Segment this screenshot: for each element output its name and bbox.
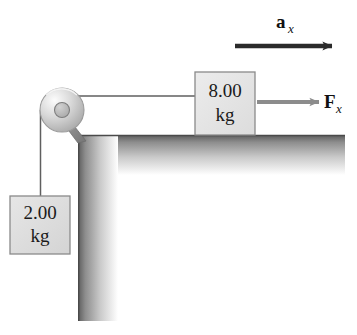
block-2kg-mass-value: 2.00 bbox=[23, 202, 56, 223]
pulley bbox=[40, 88, 84, 132]
pulley-hub bbox=[55, 103, 70, 118]
block-2kg-mass-unit: kg bbox=[31, 225, 51, 246]
acceleration-subscript: x bbox=[287, 21, 294, 36]
acceleration-symbol: a bbox=[276, 11, 286, 32]
physics-diagram-figure: 8.00 kg 2.00 kg a x F x bbox=[0, 0, 357, 335]
block-8kg: 8.00 kg bbox=[195, 72, 255, 135]
force-vector: F x bbox=[257, 91, 342, 116]
block-8kg-mass-value: 8.00 bbox=[208, 80, 241, 101]
acceleration-vector: a x bbox=[235, 11, 332, 46]
force-symbol: F bbox=[324, 91, 336, 112]
diagram-canvas: 8.00 kg 2.00 kg a x F x bbox=[0, 0, 357, 335]
block-8kg-mass-unit: kg bbox=[216, 104, 236, 125]
table-leg-band bbox=[78, 135, 118, 321]
force-subscript: x bbox=[335, 101, 342, 116]
table-surface bbox=[78, 135, 345, 321]
block-2kg: 2.00 kg bbox=[10, 196, 70, 254]
table-top-band bbox=[78, 135, 345, 175]
